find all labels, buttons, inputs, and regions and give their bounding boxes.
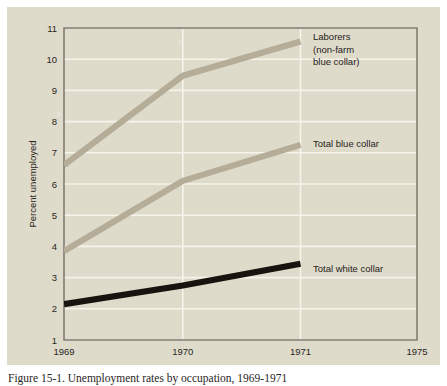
series-label-line: (non-farm [313,44,354,55]
y-tick-label: 4 [52,241,57,252]
y-tick-label: 5 [52,210,57,221]
y-axis-title: Percent unemployed [27,140,38,227]
series-label-line: blue collar) [313,56,359,67]
series-label-total-blue-collar: Total blue collar [313,138,379,149]
y-tick-label: 7 [52,147,57,158]
series-label-laborers: Laborers (non-farm blue collar) [313,31,359,67]
figure-caption: Figure 15-1. Unemployment rates by occup… [8,371,440,385]
y-tick-label: 11 [47,23,57,34]
y-tick-label: 2 [52,303,57,314]
x-tick-label: 1971 [290,346,311,357]
figure-container: 11 10 9 8 7 6 5 4 3 2 1 1969 1970 1971 1… [0,0,447,386]
x-tick-label: 1970 [172,346,193,357]
y-tick-label: 8 [52,116,57,127]
y-tick-label: 6 [52,179,57,190]
x-tick-label: 1975 [406,346,427,357]
x-tick-label: 1969 [53,346,74,357]
y-tick-label: 10 [46,54,57,65]
y-tick-label: 1 [52,335,57,346]
y-tick-label: 3 [52,272,57,283]
y-tick-label: 9 [52,85,57,96]
series-label-total-white-collar: Total white collar [313,263,383,274]
series-label-line: Laborers [313,31,351,42]
unemployment-line-chart: 11 10 9 8 7 6 5 4 3 2 1 1969 1970 1971 1… [0,0,447,386]
